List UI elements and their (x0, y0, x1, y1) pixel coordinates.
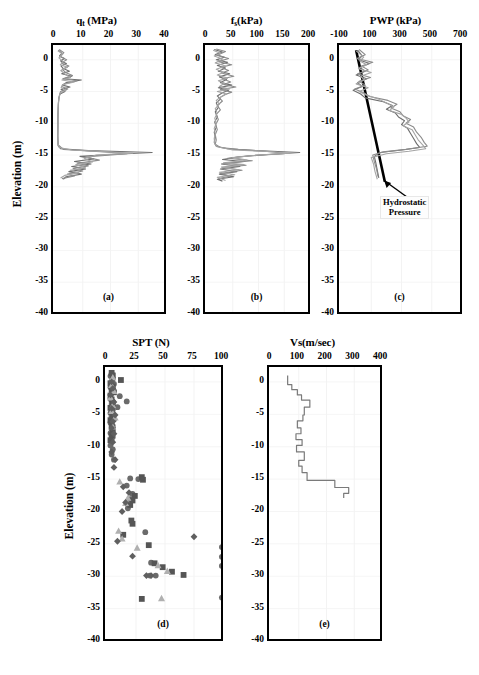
ytick-label: 0 (259, 375, 264, 385)
panel-pwp: PWP (kPa) -100100300500700 0-5-10-15-20-… (318, 14, 473, 324)
xtick-label: 0 (51, 29, 56, 39)
xtick-label: 400 (373, 351, 387, 361)
panel-spt-yticks: 0-5-10-15-20-25-30-35-40 (76, 365, 100, 641)
ytick-label: -15 (187, 148, 200, 158)
hydrostatic-annotation-line2: Pressure (383, 208, 426, 218)
panel-qt-yticks: 0-5-10-15-20-25-30-35-40 (24, 43, 48, 314)
panel-vs-xticks: 0100200300400 (240, 351, 385, 363)
ytick-label: -30 (187, 243, 200, 253)
panel-fs: fs(kPa) 050100150200 0-5-10-15-20-25-30-… (180, 14, 313, 324)
xtick-label: 50 (226, 29, 236, 39)
panel-fs-title: fs(kPa) (180, 14, 313, 26)
ytick-label: -35 (87, 602, 100, 612)
panel-pwp-xticks: -100100300500700 (318, 29, 473, 41)
panel-qt-svg (53, 45, 166, 314)
ytick-label: -10 (35, 116, 48, 126)
ytick-label: -40 (251, 634, 264, 644)
panel-spt-title: SPT (N) (76, 336, 226, 348)
ytick-label: -20 (251, 504, 264, 514)
ytick-label: -25 (35, 212, 48, 222)
ytick-label: -35 (251, 602, 264, 612)
panel-spt: SPT (N) 0255075100 0-5-10-15-20-25-30-35… (76, 336, 226, 656)
panel-pwp-yticks: 0-5-10-15-20-25-30-35-40 (314, 43, 334, 314)
xtick-label: -100 (330, 29, 347, 39)
xtick-label: 100 (249, 29, 263, 39)
panel-fs-xticks: 050100150200 (180, 29, 313, 41)
panel-spt-plot-area (103, 365, 223, 641)
ytick-label: -25 (187, 212, 200, 222)
panel-spt-svg (105, 367, 223, 641)
xtick-label: 300 (392, 29, 406, 39)
y-axis-label-lower: Elevation (m) (63, 451, 75, 561)
ytick-label: 0 (95, 375, 100, 385)
ytick-label: -15 (321, 148, 334, 158)
ytick-label: -30 (321, 243, 334, 253)
ytick-label: -20 (35, 180, 48, 190)
panel-fs-svg (205, 45, 310, 314)
panel-qt-xticks: 010203040 (24, 29, 169, 41)
panel-fs-plot-area (203, 43, 310, 314)
ytick-label: -40 (187, 307, 200, 317)
ytick-label: -15 (251, 472, 264, 482)
ytick-label: -5 (40, 85, 48, 95)
xtick-label: 0 (267, 351, 272, 361)
panel-vs-label: (e) (267, 619, 382, 629)
ytick-label: -30 (251, 569, 264, 579)
ytick-label: -35 (187, 275, 200, 285)
panel-qt-plot-area (51, 43, 166, 314)
ytick-label: -40 (87, 634, 100, 644)
xtick-label: 100 (290, 351, 304, 361)
panel-vs: Vs(m/sec) 0100200300400 0-5-10-15-20-25-… (240, 336, 385, 656)
ytick-label: -35 (35, 275, 48, 285)
panel-fs-label: (b) (203, 292, 310, 302)
panel-spt-xticks: 0255075100 (76, 351, 226, 363)
xtick-label: 40 (159, 29, 169, 39)
ytick-label: 0 (195, 53, 200, 63)
ytick-label: -5 (326, 85, 334, 95)
panel-pwp-plot-area (337, 43, 462, 314)
ytick-label: -15 (35, 148, 48, 158)
panel-vs-title: Vs(m/sec) (240, 336, 385, 348)
panel-spt-label: (d) (103, 619, 223, 629)
xtick-label: 300 (345, 351, 359, 361)
ytick-label: -15 (87, 472, 100, 482)
xtick-label: 0 (203, 29, 208, 39)
xtick-label: 150 (275, 29, 289, 39)
geotechnical-profile-figure: Elevation (m) qt (MPa) 010203040 0-5-10-… (0, 0, 479, 675)
panel-qt-label: (a) (51, 292, 166, 302)
xtick-label: 50 (158, 351, 168, 361)
ytick-label: -5 (92, 407, 100, 417)
panel-vs-plot-area (267, 365, 382, 641)
panel-pwp-label: (c) (337, 292, 462, 302)
xtick-label: 20 (104, 29, 114, 39)
y-axis-label-upper: Elevation (m) (11, 119, 23, 229)
xtick-label: 500 (423, 29, 437, 39)
ytick-label: -5 (192, 85, 200, 95)
panel-qt-title: qt (MPa) (24, 14, 169, 26)
ytick-label: -10 (87, 440, 100, 450)
panel-qt: qt (MPa) 010203040 0-5-10-15-20-25-30-35… (24, 14, 169, 324)
ytick-label: -20 (87, 504, 100, 514)
xtick-label: 100 (214, 351, 228, 361)
xtick-label: 30 (132, 29, 142, 39)
xtick-label: 100 (362, 29, 376, 39)
ytick-label: -10 (321, 116, 334, 126)
ytick-label: -30 (35, 243, 48, 253)
xtick-label: 75 (187, 351, 197, 361)
ytick-label: -35 (321, 275, 334, 285)
ytick-label: -10 (251, 440, 264, 450)
panel-vs-svg (269, 367, 382, 641)
xtick-label: 0 (103, 351, 108, 361)
ytick-label: -25 (321, 212, 334, 222)
xtick-label: 25 (129, 351, 139, 361)
ytick-label: -25 (251, 537, 264, 547)
xtick-label: 700 (453, 29, 467, 39)
xtick-label: 200 (317, 351, 331, 361)
panel-vs-yticks: 0-5-10-15-20-25-30-35-40 (240, 365, 264, 641)
ytick-label: -25 (87, 537, 100, 547)
ytick-label: -40 (321, 307, 334, 317)
ytick-label: -40 (35, 307, 48, 317)
ytick-label: -5 (256, 407, 264, 417)
panel-fs-yticks: 0-5-10-15-20-25-30-35-40 (180, 43, 200, 314)
hydrostatic-pressure-annotation: Hydrostatic Pressure (380, 196, 429, 219)
